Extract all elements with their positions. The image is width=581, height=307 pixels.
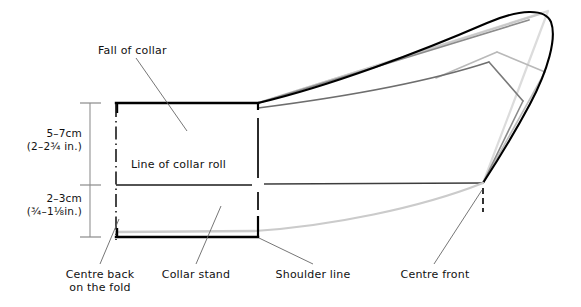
label-line-of-collar-roll: Line of collar roll xyxy=(131,158,226,171)
leader-fall-of-collar xyxy=(136,58,187,131)
label-shoulder-line: Shoulder line xyxy=(258,268,368,281)
leader-centre-back xyxy=(100,219,119,264)
pattern-drawing xyxy=(0,0,581,307)
label-collar-stand: Collar stand xyxy=(141,268,251,281)
collar-outline-black xyxy=(258,12,553,183)
leader-shoulder-line xyxy=(259,238,313,264)
label-centre-back-line1: Centre back xyxy=(45,268,155,281)
dimension-stand-imperial: (¾–1⅛in.) xyxy=(0,205,82,218)
collar-pattern-diagram: Fall of collar Line of collar roll 5–7cm… xyxy=(0,0,581,307)
leader-centre-front xyxy=(434,190,482,264)
collar-outline-light xyxy=(258,14,545,183)
collar-outline-palest xyxy=(258,11,548,183)
dimension-stand-metric: 2–3cm xyxy=(0,192,82,205)
leader-collar-stand xyxy=(196,206,221,264)
label-centre-front: Centre front xyxy=(380,268,490,281)
collar-outline-mid xyxy=(258,20,529,183)
dimension-fall-imperial: (2–2¾ in.) xyxy=(0,140,82,153)
label-fall-of-collar: Fall of collar xyxy=(98,44,167,57)
neckline-curve xyxy=(116,183,483,232)
dimension-lines xyxy=(80,103,101,237)
label-centre-back-line2: on the fold xyxy=(45,281,155,294)
dimension-fall-metric: 5–7cm xyxy=(0,127,82,140)
collar-roll-line xyxy=(116,183,483,185)
